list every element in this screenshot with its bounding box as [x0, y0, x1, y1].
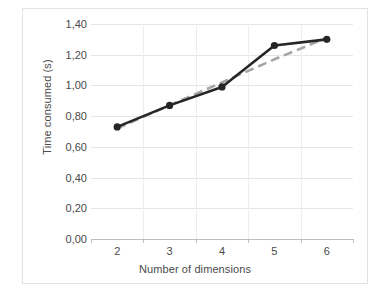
y-axis-tick-label: 0,60	[41, 141, 87, 153]
x-axis-tick-label: 3	[167, 245, 173, 257]
x-axis-tick-label: 2	[114, 245, 120, 257]
x-axis-tick-mark	[248, 239, 249, 243]
data-point-marker	[323, 36, 330, 43]
y-axis-tick-label: 1,00	[41, 79, 87, 91]
y-axis-tick-label: 1,40	[41, 18, 87, 30]
x-axis-tick-label: 4	[219, 245, 225, 257]
x-axis-tick-label: 6	[324, 245, 330, 257]
data-point-marker	[114, 123, 121, 130]
y-axis-tick-label: 0,00	[41, 233, 87, 245]
x-axis-tick-mark	[301, 239, 302, 243]
data-point-marker	[166, 102, 173, 109]
data-point-marker	[218, 83, 225, 90]
x-axis-line	[91, 239, 353, 240]
y-axis-tick-label: 0,80	[41, 110, 87, 122]
x-axis-tick-label: 5	[271, 245, 277, 257]
x-axis-tick-mark	[353, 239, 354, 243]
x-axis-tick-mark	[91, 239, 92, 243]
data-point-marker	[271, 42, 278, 49]
y-axis-tick-label: 1,20	[41, 49, 87, 61]
y-axis-tick-label: 0,40	[41, 172, 87, 184]
series-layer	[91, 24, 353, 239]
y-axis-tick-label: 0,20	[41, 202, 87, 214]
y-axis-tick-labels: 0,000,200,400,600,801,001,201,40	[41, 9, 87, 283]
x-axis-title: Number of dimensions	[23, 263, 367, 275]
x-axis-tick-mark	[196, 239, 197, 243]
x-axis-tick-mark	[143, 239, 144, 243]
chart-container: Time consumed (s) 0,000,200,400,600,801,…	[22, 8, 368, 284]
